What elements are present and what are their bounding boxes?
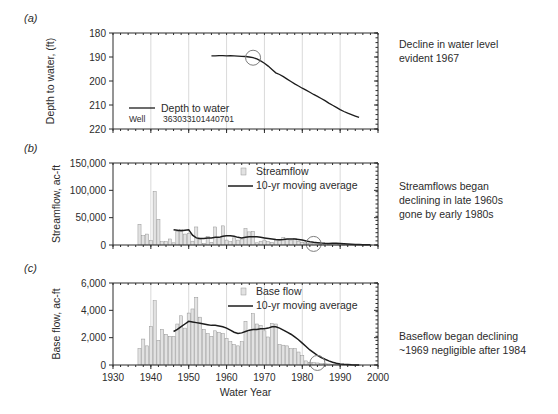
bar <box>236 240 239 245</box>
bar <box>195 227 198 245</box>
ytick-label: 6,000 <box>81 278 106 289</box>
bar <box>199 317 202 365</box>
series-line-depth-to-water <box>211 56 359 118</box>
bar <box>259 325 262 365</box>
bar <box>240 239 243 245</box>
ytick-label: 150,000 <box>70 158 107 169</box>
bar <box>301 355 304 365</box>
bar <box>153 191 156 245</box>
figure-svg: (a)180190200210220Depth to water, (ft)(b… <box>0 0 558 414</box>
bar <box>259 241 262 245</box>
bar <box>252 231 255 245</box>
bar <box>305 361 308 365</box>
annotation-a-line2: evident 1967 <box>399 52 459 64</box>
bar <box>274 324 277 365</box>
annotation-b-line2: declining in late 1960s <box>399 194 503 206</box>
bar <box>225 240 228 245</box>
bar <box>278 241 281 245</box>
xtick-label: 1960 <box>215 372 238 383</box>
legend-label-depth-to-water: Depth to water <box>161 102 230 114</box>
bar <box>146 234 149 245</box>
bar <box>267 337 270 365</box>
xtick-label: 1990 <box>329 372 352 383</box>
yaxis-title-panel-c: Base flow, ac-ft <box>50 288 62 359</box>
panel-label-panel-c: (c) <box>24 262 37 274</box>
bar <box>282 237 285 245</box>
bar <box>233 238 236 245</box>
ytick-label: 100,000 <box>70 185 107 196</box>
bar <box>229 342 232 365</box>
panel-label-panel-b: (b) <box>24 142 38 154</box>
bar <box>168 336 171 365</box>
ytick-label: 220 <box>89 124 106 135</box>
bar <box>270 323 273 365</box>
ytick-label: 0 <box>100 240 106 251</box>
ytick-label: 50,000 <box>75 212 106 223</box>
bar <box>142 339 145 365</box>
bar <box>138 224 141 245</box>
ytick-label: 200 <box>89 76 106 87</box>
bar <box>282 345 285 365</box>
legend-label-base-flow: Base flow <box>256 285 302 297</box>
bar <box>195 297 198 365</box>
bar <box>146 346 149 365</box>
bar <box>176 231 179 245</box>
figure-container: (a)180190200210220Depth to water, (ft)(b… <box>0 0 558 414</box>
ytick-label: 190 <box>89 52 106 63</box>
bar <box>191 309 194 365</box>
bar <box>289 240 292 245</box>
bar <box>210 336 213 365</box>
bar <box>149 241 152 245</box>
bar <box>217 332 220 365</box>
ytick-label: 0 <box>100 360 106 371</box>
bar <box>153 301 156 365</box>
bar <box>225 338 228 365</box>
bar <box>236 346 239 365</box>
bar <box>206 334 209 365</box>
bar <box>221 334 224 365</box>
bar <box>274 240 277 245</box>
yaxis-title-panel-b: Streamflow, ac-ft <box>50 165 62 243</box>
bar <box>248 232 251 245</box>
bar <box>138 349 141 365</box>
ytick-label: 2,000 <box>81 332 106 343</box>
bar <box>214 227 217 245</box>
bar <box>142 236 145 245</box>
bar <box>164 334 167 365</box>
bar <box>233 345 236 366</box>
xaxis-title: Water Year <box>220 386 272 398</box>
bar <box>248 331 251 365</box>
bar <box>199 240 202 245</box>
xtick-label: 2000 <box>367 372 390 383</box>
legend-label-streamflow: Streamflow <box>256 165 309 177</box>
legend-value-well-id: 363033101440701 <box>163 114 234 124</box>
xtick-label: 1970 <box>253 372 276 383</box>
bar <box>157 219 160 245</box>
xtick-label: 1940 <box>140 372 163 383</box>
bar <box>217 237 220 245</box>
legend-label-base-flow-avg: 10-yr moving average <box>256 299 358 311</box>
bar <box>214 331 217 365</box>
bar <box>286 240 289 245</box>
bar <box>180 316 183 365</box>
bar <box>149 327 152 365</box>
ytick-label: 180 <box>89 28 106 39</box>
axis-frame-panel-a <box>113 33 378 129</box>
bar <box>293 349 296 365</box>
bar <box>180 230 183 245</box>
bar <box>161 329 164 365</box>
bar <box>168 239 171 245</box>
ytick-label: 4,000 <box>81 305 106 316</box>
annotation-c-line2: ~1969 negligible after 1984 <box>399 344 526 356</box>
legend-swatch-streamflow-bar <box>241 168 246 175</box>
annotation-b-line1: Streamflows began <box>399 180 489 192</box>
panel-label-panel-a: (a) <box>24 12 38 24</box>
bar <box>202 329 205 365</box>
ytick-label: 210 <box>89 100 106 111</box>
annotation-b-line3: gone by early 1980s <box>399 208 494 220</box>
xtick-label: 1930 <box>102 372 125 383</box>
bar <box>244 321 247 365</box>
bar <box>263 331 266 365</box>
legend-label-well: Well <box>129 114 145 124</box>
legend-label-streamflow-avg: 10-yr moving average <box>256 179 358 191</box>
